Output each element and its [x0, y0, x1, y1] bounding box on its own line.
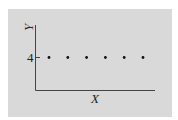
data-point — [142, 56, 145, 59]
data-point — [85, 56, 88, 59]
data-point — [48, 56, 51, 59]
data-point — [66, 56, 69, 59]
x-axis-label: X — [90, 91, 100, 106]
chart-svg: 4 Y X — [0, 0, 178, 120]
data-point — [123, 56, 126, 59]
data-point — [104, 56, 107, 59]
y-axis-label: Y — [21, 22, 36, 31]
y-tick-label: 4 — [27, 50, 34, 65]
data-points — [48, 56, 145, 59]
